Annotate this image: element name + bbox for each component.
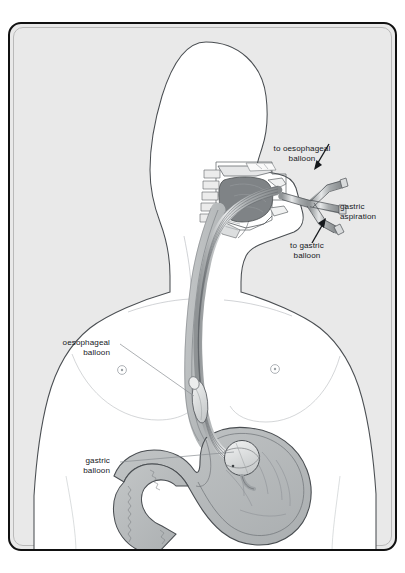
figure-root: to oesophageal balloon gastric aspiratio… — [0, 0, 405, 573]
illustration-frame: to oesophageal balloon gastric aspiratio… — [8, 22, 397, 551]
label-gastric-aspiration: gastric aspiration — [340, 202, 397, 222]
label-to-gastric-balloon: to gastric balloon — [252, 241, 362, 261]
label-to-oesophageal-balloon: to oesophageal balloon — [242, 144, 362, 164]
label-oesophageal-balloon: oesophageal balloon — [8, 338, 110, 358]
label-gastric-balloon: gastric balloon — [24, 456, 110, 476]
